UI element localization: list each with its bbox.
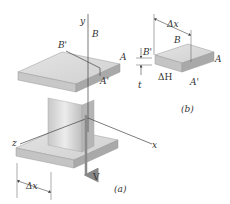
web-front — [48, 98, 82, 152]
caption-b: (b) — [181, 104, 194, 114]
v-label: V — [92, 172, 100, 182]
label-b-prime-b: B' — [142, 47, 152, 57]
label-a-b: A — [214, 54, 222, 64]
diagram-canvas: y z x V B B' A A' Δx (a) Δx t B — [0, 0, 230, 204]
dx-label-a: Δx — [25, 181, 38, 191]
x-axis-label: x — [152, 140, 157, 150]
label-a-prime: A' — [99, 76, 109, 86]
label-b-prime: B' — [57, 40, 67, 50]
y-axis-label: y — [79, 16, 86, 26]
i-beam — [16, 51, 120, 168]
label-b: B — [91, 29, 99, 39]
label-a: A — [119, 52, 127, 62]
dimension-dx-a: Δx — [17, 163, 51, 200]
label-b-b: B — [173, 35, 181, 45]
caption-a: (a) — [114, 184, 127, 194]
dx-label-b: Δx — [166, 19, 179, 29]
z-axis-label: z — [11, 138, 17, 148]
delta-h-label: ΔH — [158, 72, 172, 82]
flange-element — [155, 44, 214, 72]
t-label: t — [138, 80, 142, 90]
label-a-prime-b: A' — [189, 77, 199, 87]
